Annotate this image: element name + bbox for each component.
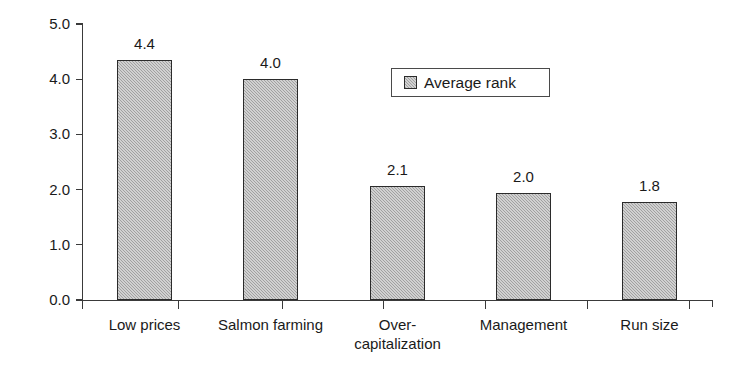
bar bbox=[496, 193, 551, 300]
y-axis-tick-label: 5.0 bbox=[28, 16, 70, 31]
bar bbox=[370, 186, 425, 300]
x-axis-tick bbox=[178, 301, 179, 309]
y-axis-tick-label: 1.0 bbox=[28, 237, 70, 252]
x-axis-category-label: Salmon farming bbox=[209, 315, 333, 334]
x-axis-tick bbox=[689, 301, 690, 309]
x-axis-tick bbox=[485, 301, 486, 309]
x-axis-category-label: Over- capitalization bbox=[336, 315, 460, 353]
bar-value-label: 4.0 bbox=[223, 55, 318, 71]
y-axis-tick-label: 2.0 bbox=[28, 182, 70, 197]
x-axis-category-label: Run size bbox=[588, 315, 712, 334]
y-axis-tick bbox=[76, 134, 83, 135]
bar bbox=[117, 60, 172, 300]
y-axis-tick-label-box: 1.0 bbox=[24, 237, 70, 253]
y-axis-tick-label-box: 3.0 bbox=[24, 126, 70, 142]
bar-value-label: 2.0 bbox=[476, 169, 571, 185]
y-axis-tick bbox=[76, 23, 83, 24]
x-axis-end-tick bbox=[712, 300, 713, 307]
legend: Average rank bbox=[391, 68, 550, 97]
bar bbox=[243, 79, 298, 300]
bar-value-label: 2.1 bbox=[350, 162, 445, 178]
y-axis-tick-label: 0.0 bbox=[28, 292, 70, 307]
y-axis-tick-label-box: 4.0 bbox=[24, 71, 70, 87]
y-axis-tick-label-box: 2.0 bbox=[24, 182, 70, 198]
y-axis-tick bbox=[76, 189, 83, 190]
bar-chart: Average rank 5.04.03.02.01.00.0 4.44.02.… bbox=[0, 0, 736, 377]
x-axis-tick bbox=[383, 301, 384, 309]
x-axis-line bbox=[82, 300, 713, 301]
y-axis-tick-label-box: 0.0 bbox=[24, 292, 70, 308]
y-axis-tick-label-box: 5.0 bbox=[24, 16, 70, 32]
legend-label: Average rank bbox=[424, 75, 516, 91]
y-axis-line bbox=[82, 23, 83, 301]
legend-swatch-icon bbox=[404, 76, 417, 89]
y-axis-title-wrapper: Average rank bbox=[8, 22, 34, 300]
x-axis-tick bbox=[282, 301, 283, 309]
bar bbox=[622, 202, 677, 300]
x-axis-category-label: Management bbox=[462, 315, 586, 334]
y-axis-tick-label: 4.0 bbox=[28, 71, 70, 86]
x-axis-category-label: Low prices bbox=[83, 315, 207, 334]
y-axis-tick-label: 3.0 bbox=[28, 126, 70, 141]
bar-value-label: 1.8 bbox=[602, 178, 697, 194]
y-axis-tick bbox=[76, 79, 83, 80]
y-axis-tick bbox=[76, 244, 83, 245]
x-axis-tick bbox=[587, 301, 588, 309]
x-axis-tick bbox=[82, 301, 83, 309]
bar-value-label: 4.4 bbox=[97, 36, 192, 52]
